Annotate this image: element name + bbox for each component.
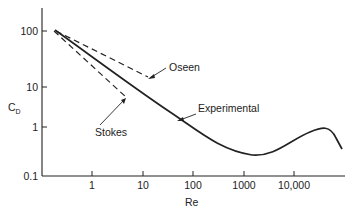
drag-coefficient-chart: 100 10 1 0.1 1 10 100 1000 10,000 CD Re … — [0, 0, 352, 220]
oseen-curve — [56, 31, 148, 77]
y-ticks — [42, 31, 47, 127]
x-tick-label-1000: 1000 — [232, 179, 256, 191]
x-tick-label-10000: 10,000 — [278, 179, 310, 191]
oseen-label: Oseen — [169, 61, 200, 73]
stokes-label: Stokes — [95, 126, 127, 138]
y-axis-label: CD — [8, 101, 21, 115]
y-tick-label-10: 10 — [26, 81, 38, 93]
experimental-label: Experimental — [198, 102, 259, 114]
oseen-leader-arrow — [148, 68, 166, 79]
x-axis-label: Re — [185, 196, 199, 208]
x-tick-label-1: 1 — [89, 179, 95, 191]
x-tick-label-100: 100 — [184, 179, 202, 191]
stokes-leader-arrow — [100, 98, 126, 125]
x-tick-label-10: 10 — [137, 179, 149, 191]
y-tick-label-100: 100 — [20, 25, 38, 37]
stokes-curve — [54, 31, 127, 98]
x-ticks — [92, 171, 294, 176]
experimental-leader-arrow — [177, 114, 196, 121]
y-tick-label-1: 1 — [32, 121, 38, 133]
y-tick-label-0.1: 0.1 — [23, 170, 38, 182]
